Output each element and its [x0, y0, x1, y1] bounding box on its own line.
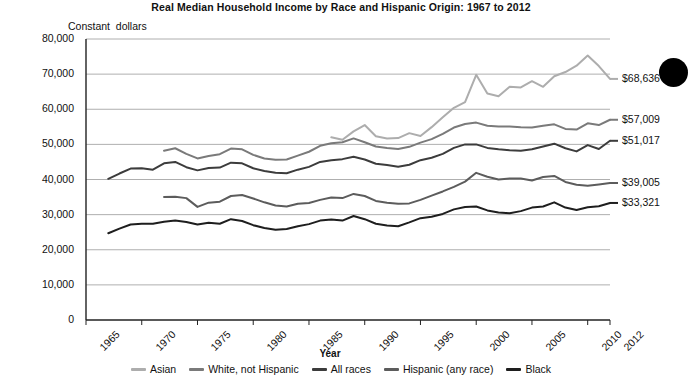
- legend-label: Hispanic (any race): [403, 363, 493, 375]
- legend-swatch-icon: [131, 368, 146, 371]
- legend-item[interactable]: White, not Hispanic: [189, 363, 298, 375]
- legend-label: All races: [331, 363, 371, 375]
- series-end-label: $39,005: [622, 176, 660, 188]
- legend-swatch-icon: [189, 368, 204, 371]
- series-line: [331, 56, 610, 140]
- y-axis-tick-label: 80,000: [16, 32, 74, 44]
- series-line: [108, 141, 610, 179]
- legend-item[interactable]: Hispanic (any race): [384, 363, 493, 375]
- series-line: [164, 173, 610, 207]
- series-end-label: $33,321: [622, 196, 660, 208]
- y-axis-tick-label: 70,000: [16, 67, 74, 79]
- black-dot-artifact: [659, 58, 688, 87]
- series-line: [108, 202, 610, 233]
- legend-label: Black: [525, 363, 551, 375]
- chart-legend: AsianWhite, not HispanicAll racesHispani…: [0, 363, 682, 375]
- series-end-label: $68,636: [622, 72, 660, 84]
- y-axis-tick-label: 0: [16, 313, 74, 325]
- series-end-label: $51,017: [622, 134, 660, 146]
- legend-item[interactable]: All races: [312, 363, 371, 375]
- y-axis-tick-label: 10,000: [16, 278, 74, 290]
- legend-item[interactable]: Black: [506, 363, 551, 375]
- x-axis-title: Year: [0, 348, 660, 359]
- y-axis-tick-label: 40,000: [16, 173, 74, 185]
- legend-label: White, not Hispanic: [208, 363, 298, 375]
- y-axis-tick-label: 20,000: [16, 243, 74, 255]
- series-line: [164, 120, 610, 160]
- y-axis-tick-label: 50,000: [16, 137, 74, 149]
- legend-swatch-icon: [384, 368, 399, 371]
- series-end-label: $57,009: [622, 113, 660, 125]
- legend-item[interactable]: Asian: [131, 363, 176, 375]
- legend-label: Asian: [150, 363, 176, 375]
- legend-swatch-icon: [506, 368, 521, 371]
- legend-swatch-icon: [312, 368, 327, 371]
- y-axis-tick-label: 60,000: [16, 102, 74, 114]
- y-axis-tick-label: 30,000: [16, 208, 74, 220]
